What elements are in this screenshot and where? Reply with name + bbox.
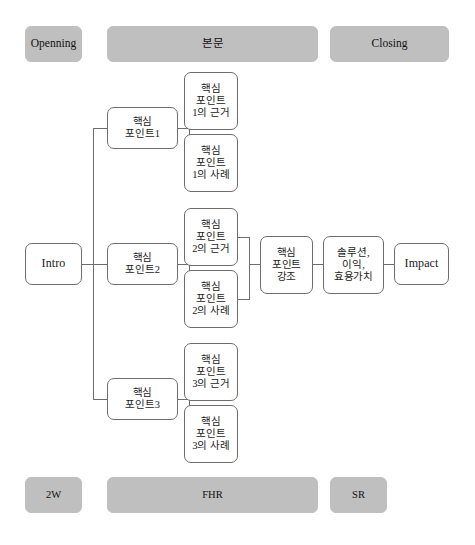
node-core-point-1-evidence[interactable]: 핵심 포인트 1의 근거 bbox=[184, 72, 238, 130]
connector-trunk-to-branch-3 bbox=[93, 399, 107, 400]
connector-branch-2-merge-vertical bbox=[249, 237, 250, 299]
node-core-point-1-example[interactable]: 핵심 포인트 1의 사례 bbox=[184, 134, 238, 192]
banner-closing: Closing bbox=[330, 26, 449, 62]
banner-body: 본문 bbox=[107, 26, 318, 62]
node-core-point-3[interactable]: 핵심 포인트3 bbox=[107, 378, 178, 420]
node-core-point-3-evidence[interactable]: 핵심 포인트 3의 근거 bbox=[184, 343, 238, 401]
node-emphasis[interactable]: 핵심 포인트 강조 bbox=[260, 236, 313, 294]
banner-2w: 2W bbox=[25, 477, 82, 513]
node-intro[interactable]: Intro bbox=[25, 243, 82, 285]
node-core-point-2-evidence[interactable]: 핵심 포인트 2의 근거 bbox=[184, 208, 238, 266]
banner-sr: SR bbox=[330, 477, 387, 513]
node-core-point-1[interactable]: 핵심 포인트1 bbox=[107, 107, 178, 149]
connector-trunk-to-branch-2 bbox=[93, 264, 107, 265]
banner-opening: Openning bbox=[25, 26, 82, 62]
node-core-point-2[interactable]: 핵심 포인트2 bbox=[107, 243, 178, 285]
connector-trunk-to-branch-1 bbox=[93, 128, 107, 129]
node-core-point-2-example[interactable]: 핵심 포인트 2의 사례 bbox=[184, 270, 238, 328]
node-solution-value[interactable]: 솔루션, 이익, 효용가치 bbox=[323, 236, 384, 294]
node-impact[interactable]: Impact bbox=[394, 243, 449, 285]
node-core-point-3-example[interactable]: 핵심 포인트 3의 사례 bbox=[184, 405, 238, 463]
diagram-canvas: Openning 본문 Closing Intro 핵심 포인트1 핵심 포인트… bbox=[0, 0, 475, 545]
connector-branch-2-example-merge bbox=[238, 299, 250, 300]
banner-fhr: FHR bbox=[107, 477, 318, 513]
